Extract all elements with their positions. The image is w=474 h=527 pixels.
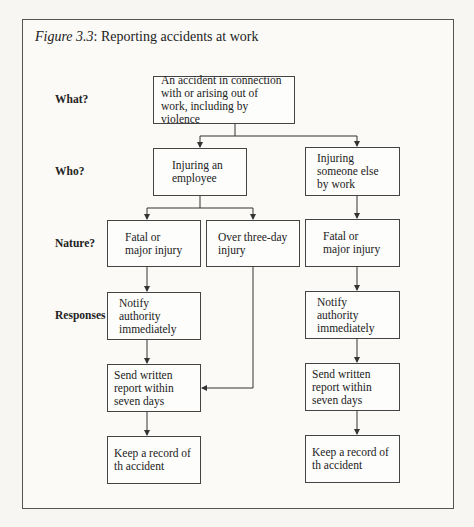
- node-emp-fatal-major: Fatal or major injury: [107, 220, 201, 267]
- node-other-written-report: Send written report within seven days: [305, 363, 400, 411]
- node-injuring-employee: Injuring an employee: [153, 148, 247, 196]
- node-other-notify: Notify authority immediately: [305, 291, 400, 339]
- node-emp-written-report: Send written report within seven days: [107, 364, 201, 412]
- node-emp-notify: Notify authority immediately: [107, 292, 201, 340]
- node-injuring-someone-else: Injuring someone else by work: [305, 147, 400, 196]
- node-other-keep-record: Keep a record of th accident: [305, 435, 400, 483]
- node-other-fatal-major: Fatal or major injury: [305, 219, 400, 267]
- node-emp-keep-record: Keep a record of th accident: [107, 436, 201, 484]
- node-over-three-day: Over three-day injury: [206, 220, 300, 267]
- node-accident: An accident in connection with or arisin…: [153, 76, 295, 124]
